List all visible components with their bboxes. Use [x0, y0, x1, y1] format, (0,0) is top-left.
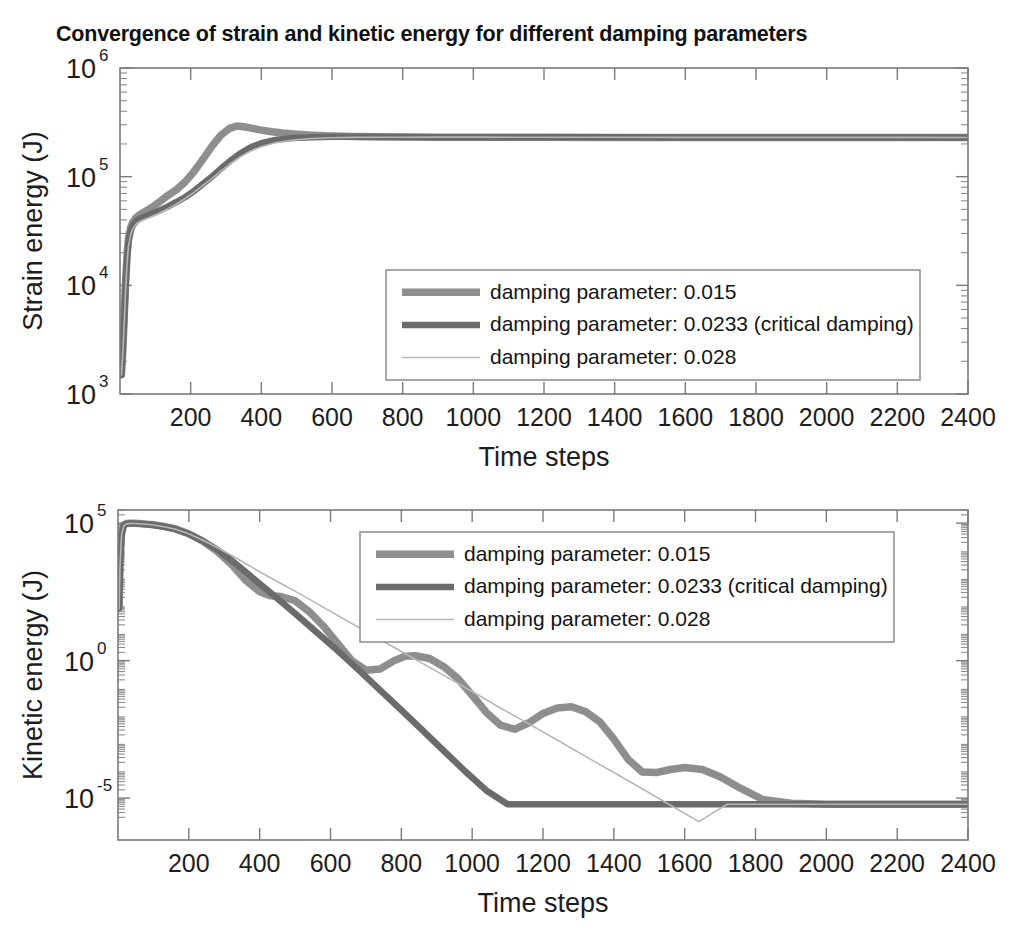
x-tick-label: 2000 — [799, 849, 855, 877]
x-tick-label: 1200 — [515, 849, 571, 877]
y-tick-label: 10 — [66, 380, 96, 410]
y-tick-label: 10 — [64, 784, 94, 814]
y-tick-exponent: 3 — [99, 372, 108, 391]
x-tick-label: 1600 — [658, 403, 714, 431]
y-tick-labels: 10-5100105 — [64, 501, 112, 814]
y-tick-exponent: 5 — [97, 501, 106, 520]
x-tick-label: 1800 — [728, 403, 784, 431]
legend-label-s1: damping parameter: 0.015 — [490, 280, 736, 303]
x-tick-label: 800 — [380, 849, 422, 877]
x-tick-label: 2400 — [940, 403, 996, 431]
x-tick-label: 1000 — [446, 403, 502, 431]
x-tick-label: 2400 — [940, 849, 996, 877]
x-axis-title: Time steps — [478, 442, 609, 470]
legend-label-s3: damping parameter: 0.028 — [464, 607, 710, 630]
y-axis-title: Strain energy (J) — [18, 131, 48, 331]
y-tick-exponent: -5 — [97, 776, 112, 795]
y-tick-exponent: 0 — [97, 639, 106, 658]
x-tick-label: 1200 — [516, 403, 572, 431]
y-tick-labels: 103104105106 — [66, 46, 109, 410]
y-tick-label: 10 — [64, 509, 94, 539]
x-tick-label: 1600 — [657, 849, 713, 877]
x-tick-label: 400 — [239, 849, 281, 877]
y-tick-exponent: 5 — [99, 155, 108, 174]
x-tick-label: 1400 — [587, 403, 643, 431]
legend-label-s2: damping parameter: 0.0233 (critical damp… — [490, 312, 914, 335]
x-tick-label: 1400 — [586, 849, 642, 877]
x-tick-label: 200 — [168, 849, 210, 877]
y-tick-label: 10 — [66, 271, 96, 301]
y-tick-label: 10 — [66, 54, 96, 84]
x-axis-title: Time steps — [477, 888, 608, 918]
figure-root: Convergence of strain and kinetic energy… — [0, 0, 1016, 948]
legend-label-s3: damping parameter: 0.028 — [490, 345, 736, 368]
x-tick-label: 2200 — [870, 403, 926, 431]
x-tick-label: 2000 — [799, 403, 855, 431]
legend-label-s2: damping parameter: 0.0233 (critical damp… — [464, 574, 888, 597]
x-tick-label: 600 — [310, 849, 352, 877]
x-tick-label: 2200 — [869, 849, 925, 877]
legend-label-s1: damping parameter: 0.015 — [464, 542, 710, 565]
y-axis-title: Kinetic energy (J) — [18, 570, 48, 780]
x-tick-label: 1800 — [728, 849, 784, 877]
x-tick-labels: 2004006008001000120014001600180020002200… — [168, 849, 996, 877]
y-tick-label: 10 — [66, 163, 96, 193]
strain-energy-chart: 2004006008001000120014001600180020002200… — [0, 0, 1016, 470]
y-tick-label: 10 — [64, 647, 94, 677]
x-tick-label: 800 — [382, 403, 424, 431]
y-tick-exponent: 6 — [99, 46, 108, 65]
kinetic-energy-panel: 2004006008001000120014001600180020002200… — [0, 470, 1016, 948]
x-tick-label: 400 — [240, 403, 282, 431]
legend: damping parameter: 0.015damping paramete… — [360, 532, 894, 642]
kinetic-energy-chart: 2004006008001000120014001600180020002200… — [0, 470, 1016, 948]
x-tick-label: 600 — [311, 403, 353, 431]
y-tick-exponent: 4 — [99, 263, 108, 282]
legend: damping parameter: 0.015damping paramete… — [386, 270, 920, 380]
strain-energy-panel: 2004006008001000120014001600180020002200… — [0, 0, 1016, 470]
x-tick-label: 200 — [170, 403, 212, 431]
x-tick-labels: 2004006008001000120014001600180020002200… — [170, 403, 996, 431]
x-tick-label: 1000 — [444, 849, 500, 877]
